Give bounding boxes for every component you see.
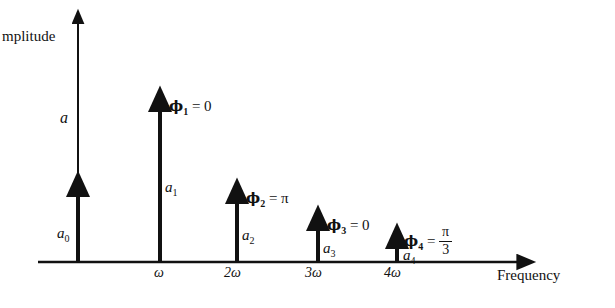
phi-symbol: ϕ — [246, 189, 260, 207]
x-axis-label: Frequency — [497, 268, 560, 283]
amplitude-symbol: a — [57, 225, 65, 241]
tick-label-4omega: 4ω — [384, 266, 401, 280]
phi-index: 3 — [341, 225, 346, 236]
phase-label-phi1: ϕ1 = 0 — [169, 99, 212, 117]
equals-sign: = — [427, 233, 435, 249]
tick-label-2omega: 2ω — [224, 266, 241, 280]
amplitude-index: 1 — [173, 187, 178, 198]
amplitude-label-a3: a3 — [323, 241, 336, 259]
equals-sign: = — [192, 98, 200, 114]
amplitude-index: 0 — [65, 233, 70, 244]
phase-value: π — [281, 190, 289, 206]
phase-label-phi3: ϕ3 = 0 — [327, 218, 370, 236]
amplitude-symbol: a — [165, 179, 173, 195]
phase-label-phi2: ϕ2 = π — [246, 191, 289, 209]
y-axis-quantity-label: a — [60, 110, 68, 126]
amplitude-symbol: a — [242, 227, 250, 243]
amplitude-index: 2 — [250, 235, 255, 246]
amplitude-label-a2: a2 — [242, 228, 255, 246]
phi-symbol: ϕ — [327, 216, 341, 234]
equals-sign: = — [350, 217, 358, 233]
line-spectrum-figure — [0, 0, 615, 308]
amplitude-label-a1: a1 — [165, 180, 178, 198]
amplitude-label-a0: a0 — [57, 226, 70, 244]
y-axis-label: mplitude — [2, 29, 55, 44]
phase-value: 0 — [362, 217, 370, 233]
phi-index: 1 — [183, 106, 188, 117]
amplitude-symbol: a — [323, 240, 331, 256]
tick-label-3omega: 3ω — [305, 266, 322, 280]
fraction-numerator: π — [439, 225, 452, 240]
phi-symbol: ϕ — [404, 232, 418, 250]
phi-index: 4 — [418, 241, 423, 252]
equals-sign: = — [269, 190, 277, 206]
phi-symbol: ϕ — [169, 97, 183, 115]
phi-index: 2 — [260, 198, 265, 209]
phase-value: 0 — [204, 98, 212, 114]
phase-value-fraction: π 3 — [439, 225, 452, 257]
fraction-denominator: 3 — [439, 243, 452, 258]
tick-label-omega: ω — [154, 266, 164, 280]
amplitude-index: 3 — [331, 248, 336, 259]
phase-label-phi4: ϕ4 = π 3 — [404, 226, 452, 258]
